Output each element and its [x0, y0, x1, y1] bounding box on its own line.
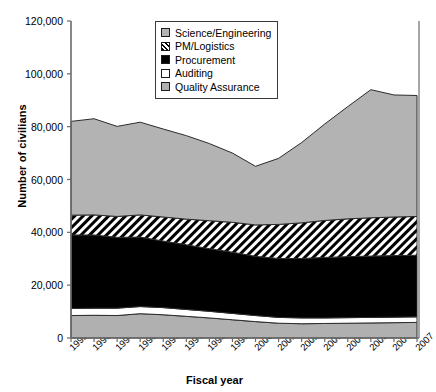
legend-label-pm-logistics: PM/Logistics — [175, 40, 235, 52]
legend-item: Auditing — [161, 67, 271, 81]
legend-label-quality-assurance: Quality Assurance — [175, 81, 260, 93]
legend-item: Quality Assurance — [161, 80, 271, 94]
legend-label-auditing: Auditing — [175, 67, 213, 79]
legend-swatch-procurement-icon — [161, 55, 170, 64]
legend-swatch-pm-logistics-icon — [161, 42, 170, 51]
legend-item: PM/Logistics — [161, 40, 271, 54]
legend-swatch-auditing-icon — [161, 69, 170, 78]
legend-item: Science/Engineering — [161, 26, 271, 40]
legend-swatch-science-engineering-icon — [161, 28, 170, 37]
legend-item: Procurement — [161, 53, 271, 67]
chart-legend: Science/Engineering PM/Logistics Procure… — [155, 21, 278, 99]
legend-label-procurement: Procurement — [175, 54, 235, 66]
legend-swatch-quality-assurance-icon — [161, 82, 170, 91]
area-series-science-engineering — [71, 90, 417, 225]
legend-label-science-engineering: Science/Engineering — [175, 27, 271, 39]
